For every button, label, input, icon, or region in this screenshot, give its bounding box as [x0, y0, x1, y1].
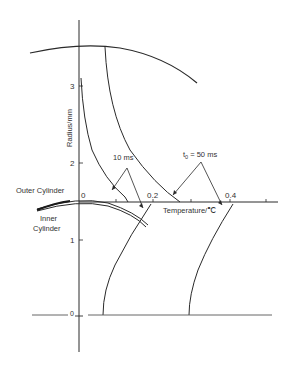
temperature-tick-label-0.4: 0.4 [225, 191, 237, 200]
pointer-50ms [173, 162, 222, 205]
outer-cylinder-label: Outer Cylinder [16, 186, 65, 195]
temperature-tick-label-0: 0 [81, 191, 86, 200]
inner-cylinder-thick [37, 201, 70, 210]
label-50ms: t0 = 50 ms [183, 150, 217, 160]
label-10ms: 10 ms [113, 153, 134, 162]
label-50ms-suffix: = 50 ms [188, 150, 217, 159]
temperature-axis-label: Temperature/℃ [163, 206, 216, 215]
curve-50ms-upper [105, 47, 180, 202]
curve-10ms-upper [81, 78, 128, 202]
radius-tick-label-3: 3 [70, 82, 75, 91]
temperature-tick-label-0.2: 0.2 [147, 191, 159, 200]
radius-tick-label-0: 0 [70, 310, 74, 317]
temperature-radius-diagram: 3 2 1 0 Radius/mm 0 0.2 0.4 Temperature/… [0, 0, 295, 367]
inner-cylinder-label-line1: Inner [40, 214, 58, 223]
radius-tick-label-1: 1 [70, 236, 75, 245]
inner-cylinder-label-line2: Cylinder [33, 224, 61, 233]
curve-50ms-lower [189, 204, 233, 315]
radius-tick-label-2: 2 [70, 159, 75, 168]
radius-axis-label: Radius/mm [65, 109, 74, 147]
outer-cylinder-arc [30, 46, 197, 83]
